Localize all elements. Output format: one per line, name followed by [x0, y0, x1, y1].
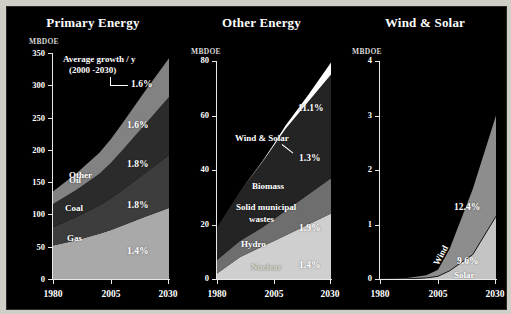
pct-primary-other-top: 1.6%: [131, 79, 152, 89]
plot-area-other-energy: [217, 61, 331, 279]
chart-panel-wind-and-solar: Wind & Solar MBDOE 0 1 2 3 4: [344, 7, 506, 309]
pct-primary-other: 1.6%: [127, 120, 148, 130]
y-tick-other-60: [212, 116, 216, 117]
y-axis-line-wind-and-solar: [379, 61, 380, 280]
y-label-ws-2: 2: [348, 164, 372, 174]
y-label-ws-3: 3: [348, 110, 372, 120]
pct-primary-coal: 1.8%: [127, 159, 148, 169]
slide-page: Primary Energy MBDOE 0 50: [0, 0, 511, 314]
x-label-ws-1980: 1980: [360, 289, 400, 299]
y-label-primary-350: 350: [15, 48, 45, 58]
band-label-biomass: Biomass: [252, 181, 284, 191]
x-tick-other-2005: [274, 280, 275, 284]
y-tick-primary-200: [48, 150, 52, 151]
pct-ws-wind: 12.4%: [454, 202, 480, 212]
x-label-primary-1980: 1980: [33, 289, 73, 299]
y-tick-ws-1: [375, 225, 379, 226]
y-tick-ws-4: [375, 61, 379, 62]
pct-primary-oil: 1.4%: [127, 246, 148, 256]
chart-panel-other-energy: Other Energy MBDOE 0 20 40: [179, 7, 344, 309]
y-tick-primary-250: [48, 118, 52, 119]
y-tick-ws-3: [375, 116, 379, 117]
y-label-ws-0: 0: [348, 273, 372, 283]
x-tick-other-1980: [217, 280, 218, 284]
y-tick-other-80: [212, 61, 216, 62]
pct-other-biomass: 1.3%: [299, 153, 320, 163]
y-axis-unit-primary-energy: MBDOE: [29, 37, 59, 46]
band-label-nuclear: Nuclear: [251, 262, 282, 272]
pct-other-nuclear: 1.4%: [299, 260, 320, 270]
x-tick-primary-1980: [53, 280, 54, 284]
band-label-wastes: wastes: [249, 214, 274, 224]
x-label-ws-2030: 2030: [475, 289, 507, 299]
band-label-wind-and-solar: Wind & Solar: [235, 133, 289, 143]
x-tick-primary-2005: [111, 280, 112, 284]
x-tick-ws-1980: [380, 280, 381, 284]
pct-ws-solar: 9.6%: [457, 256, 478, 266]
y-axis-line-other-energy: [216, 61, 217, 280]
y-label-primary-50: 50: [15, 242, 45, 252]
x-tick-primary-2030: [168, 280, 169, 284]
y-tick-primary-150: [48, 182, 52, 183]
y-axis-line-primary-energy: [52, 53, 53, 280]
x-label-ws-2005: 2005: [418, 289, 458, 299]
chart-title-other-energy: Other Energy: [179, 15, 344, 31]
y-label-primary-100: 100: [15, 209, 45, 219]
slide-canvas: Primary Energy MBDOE 0 50: [6, 6, 507, 310]
band-label-gas: Gas: [67, 233, 82, 243]
band-label-solid-municipal: Solid municipal: [236, 202, 296, 212]
band-label-hydro: Hydro: [241, 239, 266, 249]
band-label-other: Other: [69, 170, 92, 180]
y-label-ws-1: 1: [348, 219, 372, 229]
y-label-ws-4: 4: [348, 55, 372, 65]
y-label-other-40: 40: [181, 164, 209, 174]
x-tick-ws-2030: [495, 280, 496, 284]
x-tick-ws-2005: [438, 280, 439, 284]
pct-other-wind-and-solar: 11.1%: [298, 103, 324, 113]
y-tick-ws-2: [375, 170, 379, 171]
pct-primary-gas: 1.8%: [127, 200, 148, 210]
x-label-other-2005: 2005: [254, 289, 294, 299]
annotation-leader-horizontal: [110, 85, 128, 86]
y-label-primary-0: 0: [15, 274, 45, 284]
annotation-average-growth-line2: (2000 -2030): [69, 65, 116, 76]
annotation-average-growth-line1: Average growth / y: [63, 54, 135, 65]
y-label-primary-150: 150: [15, 177, 45, 187]
y-tick-other-20: [212, 225, 216, 226]
band-label-solar: Solar: [454, 270, 475, 280]
plot-area-wind-and-solar: [380, 61, 496, 279]
chart-panel-primary-energy: Primary Energy MBDOE 0 50: [7, 7, 179, 309]
y-label-primary-300: 300: [15, 80, 45, 90]
x-tick-other-2030: [330, 280, 331, 284]
y-label-primary-200: 200: [15, 145, 45, 155]
y-tick-primary-0: [48, 279, 52, 280]
x-label-primary-2005: 2005: [91, 289, 131, 299]
y-label-other-0: 0: [181, 273, 209, 283]
y-tick-primary-350: [48, 53, 52, 54]
y-label-other-80: 80: [181, 55, 209, 65]
y-label-other-20: 20: [181, 219, 209, 229]
y-tick-primary-100: [48, 214, 52, 215]
band-label-coal: Coal: [65, 203, 83, 213]
pct-other-hydro: 1.9%: [299, 223, 320, 233]
y-label-primary-250: 250: [15, 113, 45, 123]
y-tick-primary-50: [48, 247, 52, 248]
chart-title-wind-and-solar: Wind & Solar: [344, 15, 506, 31]
y-label-other-60: 60: [181, 110, 209, 120]
chart-title-primary-energy: Primary Energy: [7, 15, 179, 31]
y-tick-ws-0: [375, 279, 379, 280]
x-label-other-1980: 1980: [197, 289, 237, 299]
y-tick-other-40: [212, 170, 216, 171]
y-tick-primary-300: [48, 85, 52, 86]
y-tick-other-0: [212, 279, 216, 280]
